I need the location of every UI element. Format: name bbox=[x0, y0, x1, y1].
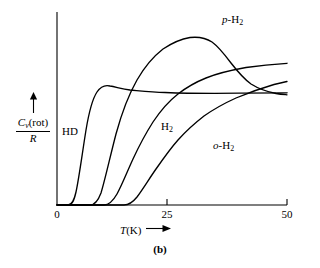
x-tick-label-0: 0 bbox=[44, 209, 70, 220]
x-tick-label-25: 25 bbox=[154, 209, 180, 220]
x-axis-unit: (K) bbox=[126, 224, 141, 236]
x-axis-right-arrow-icon bbox=[146, 224, 172, 235]
curve-label-o-h2: o-H2 bbox=[213, 140, 234, 153]
y-axis-label-denominator: R bbox=[16, 132, 50, 144]
h2-subscript: 2 bbox=[169, 125, 173, 134]
x-tick-label-50: 50 bbox=[274, 209, 300, 220]
o-subscript: 2 bbox=[230, 144, 234, 153]
y-axis-rot-text: (rot) bbox=[29, 116, 49, 128]
p-species: H bbox=[231, 13, 239, 25]
figure-caption: (b) bbox=[140, 244, 180, 255]
y-axis-label-fraction: Cv(rot) R bbox=[16, 117, 50, 144]
x-axis-label-block: T(K) bbox=[120, 224, 230, 236]
curve-hd bbox=[57, 86, 287, 205]
figure-panel-b: Cv(rot) R 0 25 50 T(K) p-H2 HD H2 o-H2 (… bbox=[0, 0, 320, 268]
curve-label-p-h2: p-H2 bbox=[222, 14, 243, 27]
o-species: H bbox=[222, 139, 230, 151]
y-axis-label-numerator: Cv(rot) bbox=[16, 117, 50, 131]
y-axis-label-block: Cv(rot) R bbox=[8, 92, 58, 145]
y-axis-up-arrow-icon bbox=[8, 92, 58, 114]
h2-species: H bbox=[161, 120, 169, 132]
curve-label-hd: HD bbox=[62, 126, 78, 137]
p-subscript: 2 bbox=[239, 18, 243, 27]
curve-label-h2: H2 bbox=[161, 121, 173, 134]
